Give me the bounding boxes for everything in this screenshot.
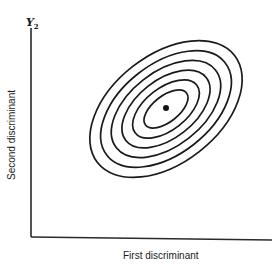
diagram-canvas	[0, 0, 272, 264]
x-axis-label: First discriminant	[123, 250, 199, 261]
y-axis-label: Second discriminant	[6, 90, 17, 180]
x-axis-line	[31, 237, 272, 240]
y-axis-symbol: Y2	[26, 16, 39, 31]
centroid-point	[163, 105, 169, 111]
